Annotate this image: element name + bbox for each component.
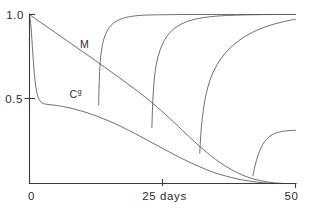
x-tick-label-50: 50 xyxy=(285,190,299,202)
x-axis-label-25-days: 25 days xyxy=(142,190,186,202)
x-tick-label-0: 0 xyxy=(28,190,35,202)
curve-burst-1 xyxy=(99,14,296,104)
curve-annotation-m: M xyxy=(80,38,89,50)
axes-group xyxy=(25,14,297,188)
chart-plot-area: 1.00.5025 days50MCg xyxy=(0,0,314,210)
chart-figure: 1.00.5025 days50MCg xyxy=(0,0,314,210)
curve-burst-2 xyxy=(152,14,296,127)
curve-annotation-superscript: g xyxy=(77,87,81,96)
curve-burst-4 xyxy=(253,130,296,176)
curve-burst-3 xyxy=(200,19,296,153)
curve-annotation-c: Cg xyxy=(69,87,81,100)
tick-label-group: 1.00.5025 days50MCg xyxy=(5,9,298,203)
y-tick-label-1: 1.0 xyxy=(6,9,24,21)
y-tick-label-0p5: 0.5 xyxy=(5,93,23,105)
